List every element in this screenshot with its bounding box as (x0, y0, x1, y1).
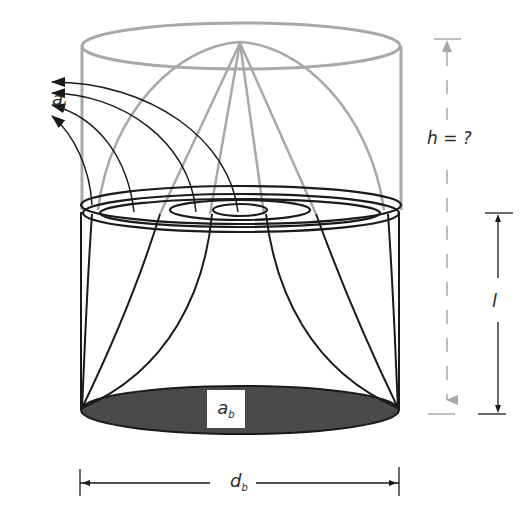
label-a-l-sub: l (63, 100, 66, 111)
label-d-b-sub: b (241, 482, 247, 493)
l-dimension (478, 213, 513, 414)
label-h: h = ? (427, 128, 472, 148)
surface-rings (81, 186, 401, 232)
label-a-b: ab (207, 390, 245, 428)
dome-arc (98, 42, 384, 210)
cylinder-diagram (0, 0, 529, 518)
label-a-b-main: a (217, 397, 228, 418)
label-l: l (492, 290, 497, 311)
center-ring (213, 204, 267, 216)
label-a-l: al (52, 88, 66, 111)
label-a-b-sub: b (228, 409, 234, 420)
lower-cylinder-lines (81, 212, 399, 410)
al-arrows (52, 82, 238, 212)
label-a-l-main: a (52, 88, 63, 109)
label-d-b: db (222, 470, 256, 493)
h-dimension (428, 39, 461, 414)
label-d-b-main: d (230, 470, 241, 491)
